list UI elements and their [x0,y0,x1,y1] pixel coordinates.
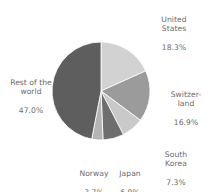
slice-label-value: 7.3% [152,178,200,187]
slice-label-value: 3.7% [74,188,114,192]
slice-label-south-korea: South Korea 7.3% [152,141,200,192]
slice-label-name: United States [142,15,206,33]
slice-label-rest-of-world: Rest of the world 47.0% [2,69,60,124]
slice-label-name: South Korea [152,150,200,168]
pie-slice-group [52,42,150,140]
slice-label-value: 47.0% [2,106,60,115]
slice-label-value: 18.3% [142,43,206,52]
slice-label-united-states: United States 18.3% [142,6,206,61]
slice-label-name: Rest of the world [2,78,60,96]
slice-label-value: 16.9% [158,118,214,127]
slice-label-japan: Japan 6.9% [112,160,148,192]
slice-label-name: Switzer- land [158,90,214,108]
slice-label-value: 6.9% [112,188,148,192]
pie-chart: United States 18.3% Switzer- land 16.9% … [0,0,215,192]
slice-label-norway: Norway 3.7% [74,160,114,192]
slice-label-name: Japan [112,169,148,178]
slice-label-name: Norway [74,169,114,178]
slice-label-switzerland: Switzer- land 16.9% [158,81,214,136]
